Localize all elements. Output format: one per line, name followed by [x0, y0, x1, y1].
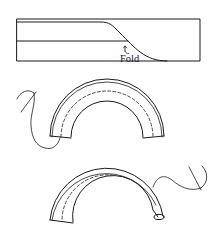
outer-edge — [50, 79, 164, 136]
outer-edge-fold — [52, 174, 156, 220]
curved-strip-step2 — [50, 166, 207, 223]
strip-outline — [17, 19, 200, 61]
fold-label: Fold — [120, 54, 139, 65]
rolled-end — [154, 214, 164, 219]
left-end — [50, 220, 73, 223]
thread — [153, 177, 201, 190]
needle-icon — [189, 167, 201, 190]
curved-strip-step1 — [17, 79, 164, 149]
left-end — [50, 136, 71, 138]
basting-line — [62, 175, 112, 219]
thread-loop — [201, 166, 207, 188]
basting-line — [61, 91, 153, 137]
right-end — [143, 136, 164, 138]
fold-strip-panel — [17, 19, 200, 61]
sewing-diagram — [0, 0, 222, 238]
inner-edge — [71, 101, 143, 137]
thread — [31, 93, 60, 149]
outer-edge-fold — [52, 82, 162, 137]
